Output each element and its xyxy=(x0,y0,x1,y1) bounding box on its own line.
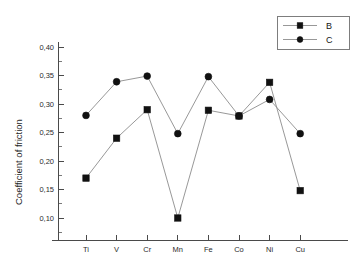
line-chart: Coefficient of friction 0,400,350,300,25… xyxy=(0,0,357,266)
data-point[interactable] xyxy=(236,113,243,120)
series-layer xyxy=(83,73,304,222)
data-point[interactable] xyxy=(266,79,272,85)
x-tick-label-v: V xyxy=(114,245,119,254)
chart-canvas: Coefficient of friction 0,400,350,300,25… xyxy=(0,0,357,266)
data-point[interactable] xyxy=(83,112,90,119)
x-tick-label-ti: Ti xyxy=(83,245,89,254)
x-tick-label-cr: Cr xyxy=(143,245,151,254)
y-tick-label: 0,30 xyxy=(39,100,54,109)
x-tick-label-ni: Ni xyxy=(266,245,273,254)
chart-legend[interactable]: BC xyxy=(277,16,349,49)
data-point[interactable] xyxy=(205,73,212,80)
x-tick-label-co: Co xyxy=(234,245,244,254)
y-tick-label: 0,15 xyxy=(39,185,54,194)
data-point[interactable] xyxy=(144,107,150,113)
data-point[interactable] xyxy=(297,187,303,193)
data-point[interactable] xyxy=(83,175,89,181)
data-point[interactable] xyxy=(205,107,211,113)
x-tick-label-mn: Mn xyxy=(173,245,183,254)
y-tick-label: 0,40 xyxy=(39,43,54,52)
y-axis-label: Coefficient of friction xyxy=(13,119,24,205)
legend-marker-square xyxy=(297,23,303,29)
legend-label: B xyxy=(326,21,332,31)
data-point[interactable] xyxy=(113,78,120,85)
y-tick-label: 0,35 xyxy=(39,71,54,80)
data-point[interactable] xyxy=(297,130,304,137)
y-tick-label: 0,20 xyxy=(39,157,54,166)
y-tick-label: 0,10 xyxy=(39,214,54,223)
y-axis-ticks: 0,400,350,300,250,200,150,10 xyxy=(39,43,64,232)
x-tick-label-fe: Fe xyxy=(204,245,213,254)
legend-box xyxy=(277,16,349,49)
legend-label: C xyxy=(326,35,333,45)
data-point[interactable] xyxy=(113,135,119,141)
x-axis-ticks: TiVCrMnFeCoNiCu xyxy=(83,235,305,254)
legend-marker-circle xyxy=(297,37,303,43)
y-tick-label: 0,25 xyxy=(39,128,54,137)
data-point[interactable] xyxy=(144,73,151,80)
data-point[interactable] xyxy=(175,215,181,221)
x-tick-label-cu: Cu xyxy=(295,245,305,254)
data-point[interactable] xyxy=(174,130,181,137)
data-point[interactable] xyxy=(266,96,273,103)
